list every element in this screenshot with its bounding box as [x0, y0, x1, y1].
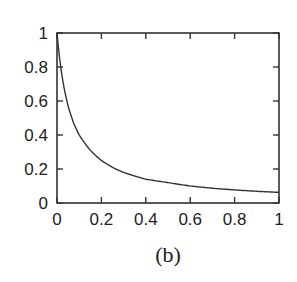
- series-line: [57, 33, 279, 192]
- plot-border: [57, 33, 279, 203]
- line-chart: 00.20.40.60.81 00.20.40.60.81 (b): [0, 0, 297, 282]
- x-tick-label: 0.4: [134, 210, 158, 229]
- x-tick-label: 0.8: [223, 210, 247, 229]
- y-tick-label: 0: [39, 194, 48, 213]
- x-tick-label: 1: [274, 210, 283, 229]
- plot-frame: [57, 33, 279, 203]
- x-axis: 00.20.40.60.81: [52, 33, 283, 229]
- y-tick-label: 0.2: [24, 160, 48, 179]
- x-tick-label: 0.2: [90, 210, 114, 229]
- y-tick-label: 0.8: [24, 58, 48, 77]
- y-tick-label: 0.6: [24, 92, 48, 111]
- x-tick-label: 0: [52, 210, 61, 229]
- y-tick-label: 1: [39, 24, 48, 43]
- y-tick-label: 0.4: [24, 126, 48, 145]
- plot-series: [57, 33, 279, 192]
- x-tick-label: 0.6: [178, 210, 202, 229]
- figure-caption: (b): [155, 242, 181, 267]
- y-axis: 00.20.40.60.81: [24, 24, 279, 213]
